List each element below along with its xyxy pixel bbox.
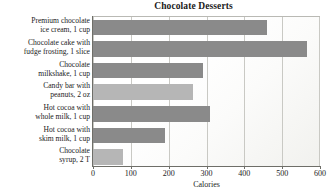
x-tick-label-200: 200 [163,169,175,178]
bar-premium-chocolate-ice-cream[interactable] [93,20,267,35]
y-axis-line [92,16,93,167]
category-label-hot-cocoa-skim-milk: Hot cocoa with skim milk, 1 cup [0,126,90,143]
category-label-line: skim milk, 1 cup [0,135,90,144]
bar-series [93,17,320,167]
bar-hot-cocoa-skim-milk[interactable] [93,128,165,143]
x-tick-label-0: 0 [91,169,95,178]
category-label-line: ice cream, 1 cup [0,26,90,35]
x-tick-label-400: 400 [238,169,250,178]
category-label-line: fudge frosting, 1 slice [0,48,90,57]
category-axis-labels: Premium chocolate ice cream, 1 cup Choco… [0,16,90,166]
bar-chocolate-cake-fudge-frosting[interactable] [93,41,307,57]
bar-candy-bar-with-peanuts[interactable] [93,84,193,100]
category-label-chocolate-cake-fudge-frosting: Chocolate cake with fudge frosting, 1 sl… [0,39,90,56]
category-label-chocolate-syrup: Chocolate syrup, 2 T [0,147,90,164]
x-axis-label: Calories [93,180,320,189]
category-label-line: syrup, 2 T [0,156,90,165]
category-label-premium-chocolate-ice-cream: Premium chocolate ice cream, 1 cup [0,17,90,34]
category-label-hot-cocoa-whole-milk: Hot cocoa with whole milk, 1 cup [0,104,90,121]
chart-container: Chocolate Desserts 0 100 200 300 400 500… [0,0,331,192]
x-tick-label-100: 100 [125,169,137,178]
category-label-line: milkshake, 1 cup [0,70,90,79]
category-label-line: peanuts, 2 oz [0,91,90,100]
category-label-chocolate-milkshake: Chocolate milkshake, 1 cup [0,61,90,78]
bar-chocolate-milkshake[interactable] [93,63,203,78]
bar-chocolate-syrup[interactable] [93,149,123,165]
x-tick-label-300: 300 [201,169,213,178]
x-tick-label-500: 500 [276,169,288,178]
plot-area [93,16,320,167]
category-label-line: whole milk, 1 cup [0,113,90,122]
category-label-candy-bar-with-peanuts: Candy bar with peanuts, 2 oz [0,82,90,99]
x-tick-label-600: 600 [314,169,326,178]
bar-hot-cocoa-whole-milk[interactable] [93,106,210,122]
chart-title: Chocolate Desserts [0,1,331,11]
